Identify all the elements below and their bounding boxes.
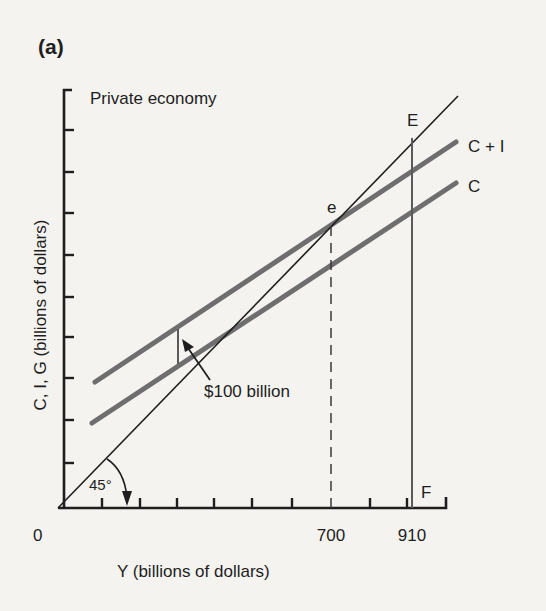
- origin-label: 0: [33, 526, 42, 545]
- equilibrium-point-label: e: [327, 198, 336, 217]
- y-axis: [64, 90, 74, 508]
- chart-canvas: (a) Private economy C, I, G (billions of…: [0, 0, 546, 611]
- series-label-c-plus-i: C + I: [468, 137, 504, 156]
- point-f-label: F: [421, 483, 431, 502]
- forty-five-degree-line: [58, 96, 458, 508]
- x-axis: [58, 497, 446, 508]
- consumption-plus-investment-line: [95, 142, 456, 382]
- full-employment-point-label: E: [407, 111, 418, 130]
- angle-label: 45°: [89, 476, 112, 493]
- panel-label: (a): [38, 35, 64, 58]
- y-axis-label: C, I, G (billions of dollars): [31, 220, 50, 411]
- x-tick-label-910: 910: [398, 526, 426, 545]
- investment-gap-label: $100 billion: [204, 382, 290, 401]
- x-axis-label: Y (billions of dollars): [117, 562, 270, 581]
- x-tick-label-700: 700: [317, 526, 345, 545]
- series-label-c: C: [468, 177, 480, 196]
- chart-title: Private economy: [90, 89, 217, 108]
